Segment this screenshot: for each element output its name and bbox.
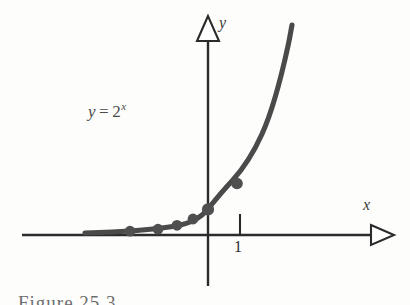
figure-container: y=2x y x 1 Figure 25.3	[0, 0, 410, 305]
x-axis-label: x	[363, 196, 370, 214]
exponential-function-plot	[0, 0, 410, 305]
figure-caption: Figure 25.3	[18, 292, 117, 305]
data-point	[153, 224, 164, 235]
y-axis-arrowhead-icon	[197, 16, 219, 41]
x-axis-arrowhead-icon	[371, 225, 394, 245]
data-point	[202, 203, 214, 215]
data-point	[172, 220, 183, 231]
data-point	[125, 226, 136, 237]
equation-base: 2	[112, 102, 121, 121]
y-axis-label: y	[219, 14, 226, 32]
equation-exponent: x	[121, 100, 126, 112]
equation-lhs: y	[88, 102, 96, 121]
equation-annotation: y=2x	[88, 100, 127, 122]
x-tick-label-one: 1	[234, 238, 242, 256]
data-point	[231, 178, 243, 190]
exponential-curve	[85, 25, 292, 233]
equation-equals-sign: =	[96, 102, 112, 121]
data-point	[188, 214, 199, 225]
